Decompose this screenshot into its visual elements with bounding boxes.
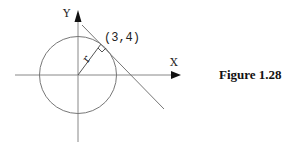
x-axis-label: X bbox=[170, 56, 178, 69]
radius-label: r bbox=[80, 52, 94, 65]
right-angle-marker bbox=[98, 48, 106, 52]
x-axis-arrow-icon bbox=[171, 71, 181, 79]
figure-caption: Figure 1.28 bbox=[219, 67, 282, 83]
y-axis-arrow-icon bbox=[75, 10, 82, 22]
point-label: (3,4) bbox=[104, 31, 140, 45]
y-axis-label: Y bbox=[62, 7, 71, 20]
